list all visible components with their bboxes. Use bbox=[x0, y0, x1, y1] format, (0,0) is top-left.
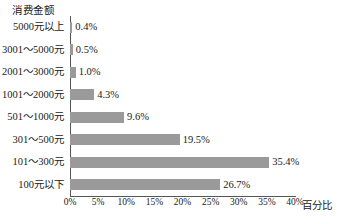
category-label: 1001～2000元 bbox=[0, 84, 64, 107]
category-label: 100元以下 bbox=[0, 174, 64, 197]
category-label: 501～1000元 bbox=[0, 106, 64, 129]
bar bbox=[70, 112, 124, 123]
bar-row: 101～300元35.4% bbox=[70, 151, 295, 174]
bar-value-label: 0.5% bbox=[73, 39, 98, 62]
bar-value-label: 1.0% bbox=[76, 61, 101, 84]
category-label: 2001～3000元 bbox=[0, 61, 64, 84]
bar bbox=[70, 134, 180, 145]
bar bbox=[70, 179, 220, 190]
category-label: 101～300元 bbox=[0, 151, 64, 174]
bar-row: 3001～5000元0.5% bbox=[70, 39, 295, 62]
bar bbox=[70, 157, 269, 168]
bar-row: 5000元以上0.4% bbox=[70, 16, 295, 39]
bar-chart: 消费金额 5000元以上0.4%3001～5000元0.5%2001～3000元… bbox=[0, 0, 350, 223]
bar bbox=[70, 89, 94, 100]
bar-value-label: 26.7% bbox=[220, 174, 250, 197]
x-axis-title: 百分比 bbox=[302, 197, 332, 212]
bar-row: 501～1000元9.6% bbox=[70, 106, 295, 129]
bar-row: 2001～3000元1.0% bbox=[70, 61, 295, 84]
bar-row: 1001～2000元4.3% bbox=[70, 84, 295, 107]
bar-value-label: 35.4% bbox=[269, 151, 299, 174]
bar-row: 301～500元19.5% bbox=[70, 129, 295, 152]
bar-value-label: 0.4% bbox=[72, 16, 97, 39]
y-axis-title: 消费金额 bbox=[0, 2, 66, 17]
bar-value-label: 9.6% bbox=[124, 106, 149, 129]
category-label: 5000元以上 bbox=[0, 16, 64, 39]
bar-value-label: 4.3% bbox=[94, 84, 119, 107]
category-label: 3001～5000元 bbox=[0, 39, 64, 62]
bar-value-label: 19.5% bbox=[180, 129, 210, 152]
plot-area: 5000元以上0.4%3001～5000元0.5%2001～3000元1.0%1… bbox=[70, 16, 295, 196]
category-label: 301～500元 bbox=[0, 129, 64, 152]
bar-row: 100元以下26.7% bbox=[70, 174, 295, 197]
